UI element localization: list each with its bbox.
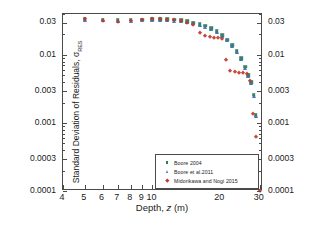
legend-swatch-square-icon — [160, 161, 174, 164]
y-axis-title: Standard Deviation of Residuals, σRES — [71, 24, 83, 200]
x-tick — [152, 185, 153, 189]
y-tick-right — [257, 55, 261, 56]
data-point — [115, 20, 120, 25]
y-tick-right — [259, 103, 261, 104]
data-point — [100, 18, 105, 23]
legend-item: Boore 2004 — [160, 158, 254, 167]
y-tick-right — [259, 134, 261, 135]
legend-item: Midorikawa and Nogi 2015 — [160, 176, 254, 185]
y-tick-label-left: 0.0001 — [0, 185, 56, 195]
x-tick-label: 7 — [114, 192, 119, 202]
legend-label: Boore 2004 — [174, 160, 202, 166]
y-tick-label-left: 0.003 — [0, 85, 56, 95]
x-tick — [260, 185, 261, 189]
legend-item: Boore et al.2011 — [160, 167, 254, 176]
y-tick-right — [259, 126, 261, 127]
y-tick-label-left: 0.001 — [0, 117, 56, 127]
y-tick-label-right: 0.001 — [268, 117, 289, 127]
y-tick-label-left: 0.0003 — [0, 153, 56, 163]
y-tick-right — [259, 143, 261, 144]
data-point — [223, 58, 228, 63]
legend-swatch-triangle-icon — [160, 170, 174, 173]
plot-frame: Boore 2004 Boore et al.2011 Midorikawa a… — [62, 13, 262, 190]
y-tick-left — [63, 75, 65, 76]
x-tick-label: 6 — [99, 192, 104, 202]
y-tick-label-right: 0.003 — [268, 85, 289, 95]
data-point — [230, 44, 234, 48]
x-tick — [142, 185, 143, 189]
y-tick-right — [259, 62, 261, 63]
x-tick — [85, 185, 86, 189]
data-point — [209, 27, 213, 31]
y-tick-right — [259, 171, 261, 172]
x-tick — [118, 185, 119, 189]
x-tick-label: 5 — [81, 192, 86, 202]
y-tick-left — [63, 143, 65, 144]
chart-legend: Boore 2004 Boore et al.2011 Midorikawa a… — [155, 154, 259, 189]
data-point — [203, 25, 207, 29]
x-tick — [131, 185, 132, 189]
y-tick-right — [257, 23, 261, 24]
y-tick-label-right: 0.0001 — [268, 185, 294, 195]
y-tick-left — [63, 171, 65, 172]
y-tick-left — [63, 123, 67, 124]
x-axis-title: Depth, z (m) — [62, 202, 262, 213]
y-tick-left — [63, 159, 67, 160]
y-tick-right — [259, 75, 261, 76]
data-point — [197, 31, 202, 36]
y-tick-left — [63, 150, 65, 151]
y-tick-right — [259, 65, 261, 66]
legend-swatch-diamond-icon — [160, 179, 174, 182]
y-tick-right — [259, 34, 261, 35]
data-point — [198, 23, 202, 27]
x-tick — [103, 185, 104, 189]
data-point — [225, 38, 229, 42]
y-tick-right — [257, 91, 261, 92]
x-tick-label: 20 — [214, 192, 224, 202]
y-tick-left — [63, 70, 65, 71]
y-tick-label-right: 0.01 — [268, 49, 285, 59]
y-tick-left — [63, 103, 65, 104]
legend-label: Boore et al.2011 — [174, 169, 213, 175]
y-tick-label-right: 0.03 — [268, 16, 285, 26]
y-tick-left — [63, 138, 65, 139]
y-tick-left — [63, 91, 67, 92]
y-tick-left — [63, 55, 67, 56]
y-tick-label-left: 0.03 — [0, 16, 56, 26]
data-point — [243, 66, 247, 70]
y-tick-right — [259, 138, 261, 139]
figure-container: Boore 2004 Boore et al.2011 Midorikawa a… — [0, 0, 310, 232]
y-tick-label-right: 0.0003 — [268, 153, 294, 163]
data-point — [239, 57, 243, 61]
x-tick-label: 4 — [59, 192, 64, 202]
y-tick-left — [63, 82, 65, 83]
y-tick-left — [63, 62, 65, 63]
y-tick-left — [63, 34, 65, 35]
data-point — [235, 50, 239, 54]
x-tick-label: 9 — [139, 192, 144, 202]
y-tick-right — [259, 58, 261, 59]
y-tick-left — [63, 126, 65, 127]
x-tick-label: 10 — [146, 192, 156, 202]
x-tick — [63, 185, 64, 189]
data-point — [253, 135, 258, 140]
y-tick-left — [63, 58, 65, 59]
y-tick-right — [257, 123, 261, 124]
y-tick-left — [63, 134, 65, 135]
figure-caption — [0, 219, 310, 232]
legend-label: Midorikawa and Nogi 2015 — [174, 178, 238, 184]
y-tick-left — [63, 130, 65, 131]
y-tick-label-left: 0.01 — [0, 49, 56, 59]
data-point — [215, 30, 219, 34]
y-tick-left — [63, 14, 65, 15]
y-tick-right — [259, 82, 261, 83]
y-tick-right — [259, 70, 261, 71]
y-tick-left — [63, 23, 67, 24]
data-point — [252, 94, 256, 98]
y-tick-right — [259, 14, 261, 15]
y-tick-left — [63, 65, 65, 66]
y-tick-right — [259, 130, 261, 131]
x-tick-label: 8 — [127, 192, 132, 202]
x-tick-label: 30 — [254, 192, 264, 202]
y-tick-right — [259, 150, 261, 151]
